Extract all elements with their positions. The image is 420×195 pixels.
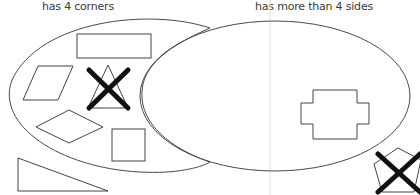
diagram-canvas <box>0 0 420 195</box>
shape-rhombus <box>36 110 103 143</box>
venn-diagram: has 4 corners has more than 4 sides <box>0 0 420 195</box>
set-outline-left-inner <box>142 28 210 162</box>
shape-parallelogram <box>23 66 73 100</box>
shape-cross-polygon <box>301 90 369 139</box>
cross-mark-icon <box>89 70 128 108</box>
shape-right-triangle <box>18 158 108 191</box>
shape-square <box>112 129 145 161</box>
cross-mark-icon <box>378 154 420 192</box>
shape-rectangle <box>77 34 151 58</box>
